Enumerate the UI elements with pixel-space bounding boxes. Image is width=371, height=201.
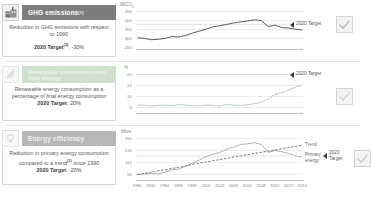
renewable-chart: % 20 15 10 5 2020 Target [118,62,366,126]
efficiency-target-label: 2020 Target [36,167,66,173]
renewable-title: Renewable penetration over final energy [22,66,116,83]
efficiency-target-arrow [323,153,327,159]
legend-primary-1: Primary [305,152,321,157]
efficiency-status-badge [354,150,371,167]
efficiency-description: Reduction in primary energy consumption … [7,150,111,167]
legend-primary-2: energy [305,158,319,163]
renewable-target-annotation: 2020 Target [296,71,321,77]
bulb-icon [2,130,19,147]
ghg-target-arrow [290,22,294,28]
ghg-title-text: GHG emissions [28,9,78,16]
efficiency-card-body: Reduction in primary energy consumption … [2,147,116,185]
efficiency-chart: Mtoe 150 130 110 90 Trend Primary energy… [118,126,366,201]
panel-renewable-penetration: Renewable penetration over final energy … [0,62,366,126]
ghg-status-badge [336,16,353,33]
renewable-card: Renewable penetration over final energy … [0,62,118,121]
renewable-description: Renewable energy consumption as a percen… [7,86,111,100]
xtick-2014: 2014 [294,183,310,188]
renewable-title-text: Renewable penetration over final energy [28,69,116,81]
renewable-card-body: Renewable energy consumption as a percen… [2,83,116,121]
efficiency-target-annotation-2: Target [329,156,342,162]
ghg-target-value: -30% [71,44,84,50]
ghg-card-header: GHG emissions(1) [2,3,116,21]
efficiency-title: Energy efficiency [22,131,116,146]
factory-icon [2,4,19,21]
ghg-title-sup: (1) [78,10,83,15]
ghg-card-body: Reduction in GHG emissions with respect … [2,21,116,57]
panel-energy-efficiency: Energy efficiency Reduction in primary e… [0,126,366,201]
renewable-target-label: 2020 Target [37,100,67,106]
ghg-chart: MtCO2 450 400 350 300 250 2020 Target [118,0,366,62]
renewable-target-value: 20% [70,100,81,106]
efficiency-title-text: Energy efficiency [28,135,84,142]
renewable-target-arrow [290,72,294,78]
ghg-plot [118,0,366,62]
efficiency-card: Energy efficiency Reduction in primary e… [0,126,118,185]
legend-trend: Trend [305,142,317,147]
efficiency-target: 2020 Target: -20% [7,167,111,174]
renewable-status-badge [336,88,353,105]
renewable-target: 2020 Target: 20% [7,100,111,107]
efficiency-plot [118,126,366,201]
leaf-icon [2,66,19,83]
panel-ghg-emissions: GHG emissions(1) Reduction in GHG emissi… [0,0,366,62]
renewable-card-header: Renewable penetration over final energy [2,65,116,83]
ghg-target-annotation: 2020 Target [296,21,321,27]
ghg-target-label: 2020 Target [34,44,64,50]
renewable-plot [118,62,366,126]
ghg-target-sup: (2) [64,42,69,47]
ghg-card: GHG emissions(1) Reduction in GHG emissi… [0,0,118,57]
efficiency-card-header: Energy efficiency [2,129,116,147]
efficiency-target-value: -20% [69,167,82,173]
ghg-target: 2020 Target(2): -30% [7,41,111,51]
ghg-description: Reduction in GHG emissions with respect … [7,24,111,38]
ghg-title: GHG emissions(1) [22,5,116,20]
